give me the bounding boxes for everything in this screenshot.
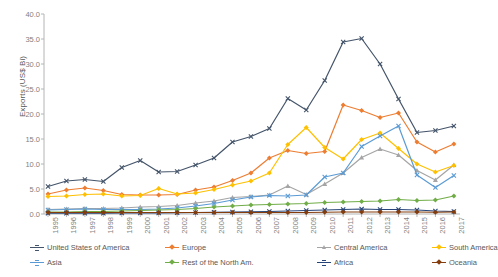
legend-item-central-america[interactable]: Central America [317, 243, 432, 252]
y-tick-label: 35.0 [25, 35, 40, 44]
legend-label: Rest of the North Am. [182, 259, 254, 267]
legend-swatch-icon [432, 258, 446, 267]
legend-label: Oceania [449, 259, 477, 267]
chart-legend: United States of AmericaEuropeCentral Am… [30, 240, 460, 270]
x-tick-label: 2009 [309, 217, 318, 234]
legend-swatch-icon [30, 258, 44, 267]
plot-svg [44, 14, 460, 214]
y-tick-label: 20.0 [25, 110, 40, 119]
legend-swatch-icon [317, 243, 331, 252]
x-tick-label: 2012 [365, 217, 374, 234]
legend-label: Central America [334, 244, 387, 252]
legend-label: United States of America [47, 244, 130, 252]
legend-item-asia[interactable]: Asia [30, 258, 165, 267]
plot-area: 0.05.010.015.020.025.030.035.040.0199519… [44, 14, 460, 214]
legend-item-europe[interactable]: Europe [165, 243, 317, 252]
legend-swatch-icon [30, 243, 44, 252]
y-tick-label: 10.0 [25, 160, 40, 169]
y-tick-label: 25.0 [25, 85, 40, 94]
axis-lines [41, 14, 460, 217]
legend-item-oceania[interactable]: Oceania [432, 258, 498, 267]
x-tick-label: 2014 [402, 217, 411, 234]
y-tick-label: 15.0 [25, 135, 40, 144]
x-tick-label: 2011 [346, 217, 355, 233]
x-tick-label: 2016 [438, 217, 447, 234]
legend-item-rest-of-the-north-am[interactable]: Rest of the North Am. [165, 258, 317, 267]
legend-swatch-icon [432, 243, 446, 252]
x-tick-label: 2017 [457, 217, 466, 234]
x-tick-label: 1997 [88, 217, 97, 234]
legend-swatch-icon [317, 258, 331, 267]
x-tick-label: 2002 [180, 217, 189, 234]
y-tick-label: 40.0 [25, 10, 40, 19]
x-tick-label: 1999 [125, 217, 134, 234]
x-tick-label: 2008 [291, 217, 300, 234]
legend-label: Europe [182, 244, 206, 252]
legend-item-africa[interactable]: Africa [317, 258, 432, 267]
legend-label: Africa [334, 259, 353, 267]
y-tick-label: 0.0 [30, 210, 40, 219]
x-tick-label: 2006 [254, 217, 263, 234]
x-tick-label: 1995 [51, 217, 60, 234]
series-line-united-states-of-america [46, 36, 456, 188]
legend-label: South America [449, 244, 498, 252]
x-tick-label: 1996 [69, 217, 78, 234]
y-tick-label: 5.0 [30, 185, 40, 194]
legend-swatch-icon [165, 258, 179, 267]
y-tick-label: 30.0 [25, 60, 40, 69]
x-tick-label: 2005 [235, 217, 244, 234]
x-tick-label: 1998 [106, 217, 115, 234]
x-tick-label: 2010 [328, 217, 337, 234]
legend-item-united-states-of-america[interactable]: United States of America [30, 243, 165, 252]
x-tick-label: 2004 [217, 217, 226, 234]
legend-swatch-icon [165, 243, 179, 252]
x-tick-label: 2003 [199, 217, 208, 234]
legend-label: Asia [47, 259, 62, 267]
x-tick-label: 2000 [143, 217, 152, 234]
x-tick-label: 2001 [162, 217, 171, 234]
x-tick-label: 2015 [420, 217, 429, 234]
x-tick-label: 2007 [272, 217, 281, 234]
x-tick-label: 2013 [383, 217, 392, 234]
legend-item-south-america[interactable]: South America [432, 243, 498, 252]
